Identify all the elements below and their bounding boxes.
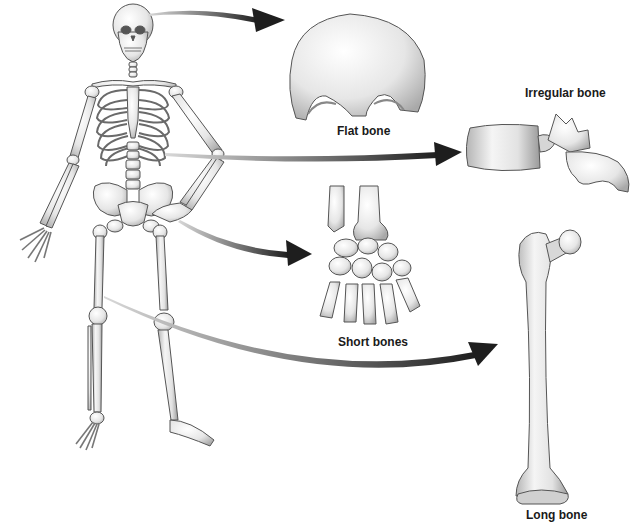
label-flat-bone: Flat bone bbox=[337, 124, 390, 138]
label-irregular-bone: Irregular bone bbox=[525, 86, 606, 100]
arrow-skull-to-flat-bone bbox=[148, 8, 285, 32]
right-arm bbox=[20, 86, 99, 262]
right-foot bbox=[76, 422, 99, 450]
bone-classification-diagram bbox=[0, 0, 640, 530]
sternum bbox=[127, 87, 139, 138]
skeleton-illustration bbox=[20, 4, 224, 450]
cervical-vertebrae bbox=[129, 62, 137, 77]
arrow-wrist-to-short-bones bbox=[178, 220, 312, 266]
skull bbox=[113, 4, 153, 62]
long-bone-illustration bbox=[516, 230, 581, 504]
lumbar-vertebrae bbox=[126, 142, 140, 189]
right-hand bbox=[20, 228, 51, 262]
short-bones-illustration bbox=[320, 186, 420, 324]
irregular-bone-illustration bbox=[466, 114, 628, 192]
label-short-bones: Short bones bbox=[338, 335, 408, 349]
label-long-bone: Long bone bbox=[526, 508, 587, 522]
right-leg bbox=[76, 225, 107, 450]
flat-bone-illustration bbox=[290, 14, 425, 120]
